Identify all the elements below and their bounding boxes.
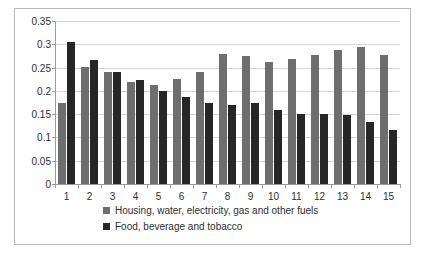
- chart-frame: 00.050.10.150.20.250.30.35 1234567891011…: [14, 8, 411, 245]
- bar-group: [103, 21, 126, 184]
- legend-item-food: Food, beverage and tobacco: [103, 221, 403, 232]
- bar-group: [80, 21, 103, 184]
- bar: [242, 56, 250, 184]
- x-axis-tick-label: 13: [337, 191, 348, 202]
- x-axis-tick-mark: [78, 184, 79, 188]
- x-axis-tick-label: 7: [202, 191, 208, 202]
- bar: [90, 60, 98, 184]
- chart-legend: Housing, water, electricity, gas and oth…: [103, 205, 403, 237]
- bar: [159, 91, 167, 184]
- x-axis-tick-label: 8: [225, 191, 231, 202]
- legend-swatch-housing: [103, 207, 110, 214]
- bar: [265, 62, 273, 184]
- bar-group: [356, 21, 379, 184]
- bar: [297, 114, 305, 184]
- bar: [150, 85, 158, 184]
- bar: [274, 110, 282, 184]
- y-axis-tick-mark: [52, 44, 56, 45]
- bar-group: [333, 21, 356, 184]
- x-axis-tick-label: 2: [87, 191, 93, 202]
- x-axis-tick-label: 3: [110, 191, 116, 202]
- bar: [228, 105, 236, 184]
- y-axis-tick-label: 0.25: [32, 62, 51, 73]
- bar: [182, 97, 190, 184]
- x-axis-tick-mark: [354, 184, 355, 188]
- x-axis-tick-label: 1: [64, 191, 70, 202]
- bar: [58, 103, 66, 184]
- x-axis-tick-mark: [101, 184, 102, 188]
- bar-group: [379, 21, 402, 184]
- bar: [380, 55, 388, 184]
- y-axis-tick-mark: [52, 68, 56, 69]
- x-axis-tick-label: 12: [314, 191, 325, 202]
- y-axis-tick-mark: [52, 91, 56, 92]
- x-axis-line: [55, 184, 400, 185]
- bar: [196, 72, 204, 184]
- y-axis-tick-labels: 00.050.10.150.20.250.30.35: [15, 21, 51, 185]
- bar-group: [126, 21, 149, 184]
- bar-group: [218, 21, 241, 184]
- bar: [127, 82, 135, 184]
- x-axis-tick-label: 5: [156, 191, 162, 202]
- bar: [357, 47, 365, 184]
- bar-group: [57, 21, 80, 184]
- bar: [288, 59, 296, 184]
- bar: [251, 103, 259, 184]
- bar: [334, 50, 342, 184]
- bar: [67, 42, 75, 184]
- x-axis-tick-label: 15: [383, 191, 394, 202]
- bar: [205, 103, 213, 184]
- bar: [320, 114, 328, 184]
- x-axis-tick-mark: [124, 184, 125, 188]
- legend-swatch-food: [103, 223, 110, 230]
- bar-group: [241, 21, 264, 184]
- bar: [136, 80, 144, 184]
- y-axis-tick-label: 0.2: [37, 85, 51, 96]
- bar-group: [149, 21, 172, 184]
- x-axis-tick-label: 14: [360, 191, 371, 202]
- x-axis-tick-mark: [170, 184, 171, 188]
- y-axis-tick-label: 0.05: [32, 155, 51, 166]
- y-axis-tick-mark: [52, 114, 56, 115]
- bar: [311, 55, 319, 184]
- y-axis-tick-mark: [52, 184, 56, 185]
- x-axis-tick-label: 9: [248, 191, 254, 202]
- bar: [104, 72, 112, 184]
- bar: [343, 115, 351, 184]
- bar: [366, 122, 374, 184]
- x-axis-tick-mark: [147, 184, 148, 188]
- y-axis-tick-mark: [52, 137, 56, 138]
- plot-area: 123456789101112131415: [55, 21, 400, 185]
- y-axis-tick-label: 0.3: [37, 39, 51, 50]
- bar: [113, 72, 121, 184]
- x-axis-tick-mark: [331, 184, 332, 188]
- x-axis-tick-label: 10: [268, 191, 279, 202]
- bar-group: [287, 21, 310, 184]
- x-axis-tick-mark: [285, 184, 286, 188]
- bar-group: [310, 21, 333, 184]
- bar: [81, 67, 89, 184]
- x-axis-tick-mark: [400, 184, 401, 188]
- x-axis-tick-mark: [308, 184, 309, 188]
- x-axis-tick-mark: [216, 184, 217, 188]
- bar-group: [195, 21, 218, 184]
- bar-group: [264, 21, 287, 184]
- x-axis-tick-mark: [262, 184, 263, 188]
- bar: [173, 79, 181, 184]
- y-axis-tick-label: 0: [45, 179, 51, 190]
- x-axis-tick-mark: [193, 184, 194, 188]
- y-axis-tick-label: 0.15: [32, 109, 51, 120]
- y-axis-tick-mark: [52, 21, 56, 22]
- legend-label-food: Food, beverage and tobacco: [115, 221, 242, 232]
- y-axis-tick-mark: [52, 161, 56, 162]
- x-axis-tick-label: 4: [133, 191, 139, 202]
- legend-item-housing: Housing, water, electricity, gas and oth…: [103, 205, 403, 216]
- y-axis-tick-label: 0.1: [37, 132, 51, 143]
- bar: [389, 130, 397, 184]
- y-axis-tick-label: 0.35: [32, 16, 51, 27]
- x-axis-tick-label: 6: [179, 191, 185, 202]
- bar-group: [172, 21, 195, 184]
- legend-label-housing: Housing, water, electricity, gas and oth…: [115, 205, 318, 216]
- x-axis-tick-mark: [239, 184, 240, 188]
- x-axis-tick-mark: [377, 184, 378, 188]
